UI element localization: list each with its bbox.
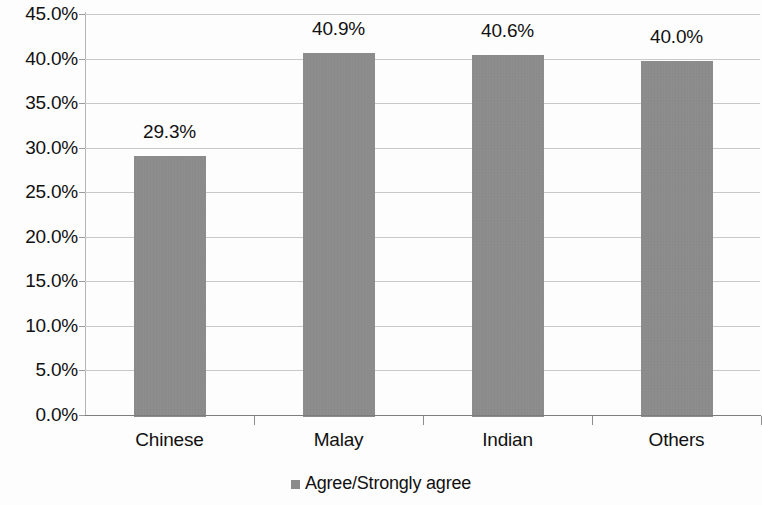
bar-value-label: 29.3% xyxy=(110,122,230,141)
x-tick-mark xyxy=(423,416,424,425)
y-tick-label: 30.0% xyxy=(2,138,78,157)
x-tick-mark xyxy=(254,416,255,425)
x-tick-label: Malay xyxy=(259,430,419,450)
y-tick-mark xyxy=(79,148,85,149)
y-tick-label: 0.0% xyxy=(2,405,78,424)
bar-value-label: 40.9% xyxy=(279,19,399,38)
bar xyxy=(303,53,375,417)
y-tick-label: 25.0% xyxy=(2,182,78,201)
gridline xyxy=(85,59,760,60)
y-tick-mark xyxy=(79,103,85,104)
bar xyxy=(641,61,713,417)
y-tick-mark xyxy=(79,281,85,282)
x-tick-label: Indian xyxy=(428,430,588,450)
y-tick-mark xyxy=(79,59,85,60)
y-tick-label: 5.0% xyxy=(2,360,78,379)
y-tick-mark xyxy=(79,326,85,327)
y-tick-mark xyxy=(79,14,85,15)
gridline xyxy=(85,14,760,15)
y-tick-mark xyxy=(79,237,85,238)
plot-area xyxy=(85,12,760,417)
y-tick-mark xyxy=(79,370,85,371)
x-tick-mark xyxy=(592,416,593,425)
y-tick-label: 20.0% xyxy=(2,227,78,246)
y-tick-mark xyxy=(79,192,85,193)
y-tick-mark xyxy=(79,415,85,416)
legend-swatch-icon xyxy=(291,480,300,489)
y-tick-label: 45.0% xyxy=(2,4,78,23)
legend-label: Agree/Strongly agree xyxy=(305,474,471,493)
y-tick-label: 35.0% xyxy=(2,93,78,112)
x-tick-label: Others xyxy=(597,430,757,450)
bar-value-label: 40.6% xyxy=(448,21,568,40)
bar xyxy=(134,156,206,417)
y-axis-labels: 45.0%40.0%35.0%30.0%25.0%20.0%15.0%10.0%… xyxy=(0,0,78,505)
bar-chart: 45.0%40.0%35.0%30.0%25.0%20.0%15.0%10.0%… xyxy=(0,0,762,505)
bar-value-label: 40.0% xyxy=(617,27,737,46)
y-tick-label: 10.0% xyxy=(2,316,78,335)
x-tick-label: Chinese xyxy=(90,430,250,450)
y-tick-label: 40.0% xyxy=(2,49,78,68)
y-tick-label: 15.0% xyxy=(2,271,78,290)
bar xyxy=(472,55,544,417)
chart-legend: Agree/Strongly agree xyxy=(0,474,762,493)
